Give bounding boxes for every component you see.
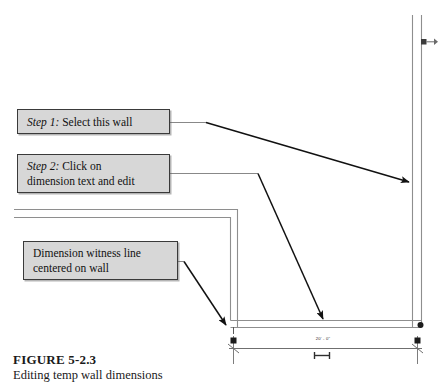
vertical-wall[interactable] [413,15,422,327]
figure-caption-title-text: FIGURE 5-2.3 [13,352,96,367]
figure-caption-title: FIGURE 5-2.3 [13,352,96,368]
callout-step-2-line1: Step 2: Click on [27,159,169,174]
floor-plan-drawing [0,0,445,390]
wall-drag-grip-icon[interactable] [421,39,438,45]
callout-step-2[interactable]: Step 2: Click on dimension text and edit [17,154,170,193]
callout-step-2-line2: dimension text and edit [27,174,169,189]
callout-step-1[interactable]: Step 1: Select this wall [17,109,170,134]
dimension-text-move-handle-icon[interactable] [315,352,330,359]
dimension-endpoint-grip-left-icon[interactable] [231,338,237,344]
bottom-wall[interactable] [231,321,422,328]
callout-witness-line2: centered on wall [33,261,177,276]
callout-step-1-label: Step 1: [27,116,59,128]
dimension-value-text[interactable]: 20' - 0" [306,336,340,341]
callout-step-1-text: Select this wall [59,116,132,128]
dimension-endpoint-grip-right-icon[interactable] [415,338,421,344]
figure-page: Step 1: Select this wall Step 2: Click o… [0,0,445,390]
leader-step2 [170,174,323,320]
wall-endpoint-grip-icon[interactable] [418,322,424,328]
figure-caption-subtitle: Editing temp wall dimensions [13,368,163,383]
callout-step-2-label: Step 2: [27,160,59,172]
leader-witness [178,262,226,326]
callout-witness-line[interactable]: Dimension witness line centered on wall [23,241,178,280]
callout-witness-line1: Dimension witness line [33,246,177,261]
callout-step-2-text: Click on [59,160,101,172]
